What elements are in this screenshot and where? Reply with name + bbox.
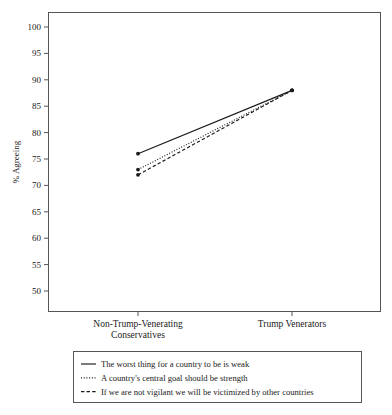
data-series-group bbox=[136, 88, 294, 176]
legend-label-0: The worst thing for a country to be is w… bbox=[101, 359, 250, 369]
x-tick-label-0-line2: Conservatives bbox=[111, 330, 165, 340]
series-line-central-goal-strength bbox=[138, 90, 292, 169]
y-tick-label-70: 70 bbox=[32, 180, 42, 190]
legend-label-2: If we are not vigilant we will be victim… bbox=[101, 387, 314, 397]
x-tick-label-0-line1: Non-Trump-Venerating bbox=[93, 319, 183, 329]
y-tick-label-85: 85 bbox=[32, 101, 42, 111]
series-marker-central-goal-strength-left bbox=[136, 168, 140, 172]
series-line-worst-thing-weak bbox=[138, 90, 292, 153]
chart-legend: The worst thing for a country to be is w… bbox=[74, 352, 362, 403]
plot-frame bbox=[49, 13, 381, 312]
x-tick-label-1-line1: Trump Venerators bbox=[258, 319, 327, 329]
x-axis: Non-Trump-Venerating Conservatives Trump… bbox=[93, 312, 326, 340]
series-marker-worst-thing-weak-left bbox=[136, 152, 140, 156]
series-marker-not-vigilant-victimized-right bbox=[290, 88, 294, 92]
y-tick-label-75: 75 bbox=[32, 154, 42, 164]
y-tick-label-80: 80 bbox=[32, 128, 42, 138]
y-tick-label-60: 60 bbox=[32, 233, 42, 243]
line-chart-svg: 50 55 60 65 70 75 80 85 90 95 100 % Agre… bbox=[0, 0, 392, 415]
y-tick-label-65: 65 bbox=[32, 207, 42, 217]
chart-figure: 50 55 60 65 70 75 80 85 90 95 100 % Agre… bbox=[0, 0, 392, 415]
y-tick-label-50: 50 bbox=[32, 286, 42, 296]
legend-label-1: A country's central goal should be stren… bbox=[101, 373, 248, 383]
y-tick-label-100: 100 bbox=[28, 22, 42, 32]
series-line-not-vigilant-victimized bbox=[138, 90, 292, 174]
series-marker-not-vigilant-victimized-left bbox=[136, 173, 140, 177]
y-tick-label-90: 90 bbox=[32, 75, 42, 85]
y-axis-title: % Agreeing bbox=[11, 140, 21, 183]
y-tick-label-95: 95 bbox=[32, 48, 42, 58]
y-tick-label-55: 55 bbox=[32, 260, 42, 270]
y-axis: 50 55 60 65 70 75 80 85 90 95 100 bbox=[28, 22, 49, 296]
